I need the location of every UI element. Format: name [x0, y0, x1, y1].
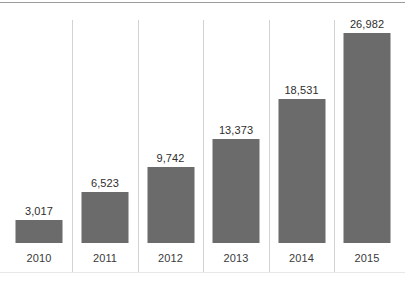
category-label: 2011: [93, 252, 117, 264]
bar[interactable]: [278, 99, 325, 243]
bar[interactable]: [147, 167, 194, 243]
bar[interactable]: [344, 33, 391, 243]
bar-group: 9,742 2012: [138, 0, 203, 282]
bar-chart: 3,017 2010 6,523 2011 9,742 2012 13,373 …: [0, 0, 405, 282]
category-label: 2010: [27, 252, 52, 264]
bar[interactable]: [82, 192, 129, 243]
category-label: 2012: [158, 252, 183, 264]
bar[interactable]: [213, 139, 260, 243]
category-label: 2013: [224, 252, 249, 264]
category-label: 2014: [289, 252, 314, 264]
bar-value-label: 6,523: [91, 177, 119, 189]
bar[interactable]: [16, 220, 63, 243]
bar-value-label: 26,982: [350, 18, 384, 30]
bar-group: 3,017 2010: [6, 0, 72, 282]
bar-value-label: 9,742: [156, 152, 184, 164]
bar-group: 13,373 2013: [203, 0, 269, 282]
bar-value-label: 13,373: [219, 124, 253, 136]
category-label: 2015: [355, 252, 380, 264]
bar-group: 6,523 2011: [72, 0, 138, 282]
bar-group: 26,982 2015: [334, 0, 400, 282]
bar-group: 18,531 2014: [269, 0, 334, 282]
plot-area: 3,017 2010 6,523 2011 9,742 2012 13,373 …: [0, 0, 405, 282]
bar-value-label: 18,531: [284, 84, 318, 96]
bar-value-label: 3,017: [25, 205, 53, 217]
